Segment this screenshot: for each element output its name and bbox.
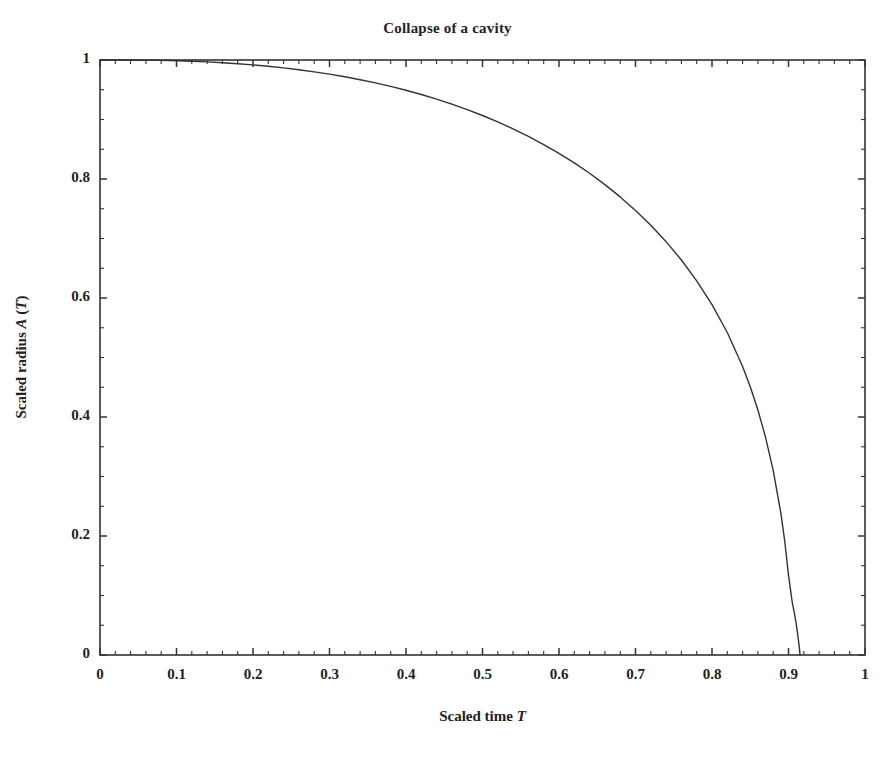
x-tick-label: 0.9 (759, 666, 819, 683)
x-tick-label: 0.1 (147, 666, 207, 683)
y-tick-label: 1 (30, 50, 90, 67)
x-tick-label: 0.2 (223, 666, 283, 683)
x-tick-label: 0 (70, 666, 130, 683)
y-axis-label-symbol-b: T (13, 301, 29, 310)
x-axis-label: Scaled time T (100, 708, 865, 725)
x-axis-label-text: Scaled time (439, 708, 516, 724)
x-axis-label-symbol: T (517, 708, 526, 724)
y-axis-label-text-a: Scaled radius (13, 328, 29, 418)
y-axis-label: Scaled radius A (T) (13, 262, 30, 452)
x-tick-label: 0.8 (682, 666, 742, 683)
chart-figure: Collapse of a cavity Scaled radius A (T)… (0, 0, 895, 759)
x-tick-label: 0.6 (529, 666, 589, 683)
y-axis-label-text-b: ( (13, 310, 29, 319)
plot-frame (100, 60, 865, 655)
x-tick-label: 0.7 (606, 666, 666, 683)
x-tick-label: 1 (835, 666, 895, 683)
y-tick-label: 0.4 (30, 407, 90, 424)
x-tick-label: 0.3 (300, 666, 360, 683)
y-tick-label: 0.6 (30, 288, 90, 305)
y-tick-label: 0 (30, 645, 90, 662)
y-tick-label: 0.8 (30, 169, 90, 186)
y-axis-label-symbol-a: A (13, 318, 29, 328)
y-tick-label: 0.2 (30, 526, 90, 543)
plot-area (0, 0, 895, 759)
x-tick-label: 0.5 (453, 666, 513, 683)
y-axis-label-text-c: ) (13, 296, 29, 301)
x-tick-label: 0.4 (376, 666, 436, 683)
